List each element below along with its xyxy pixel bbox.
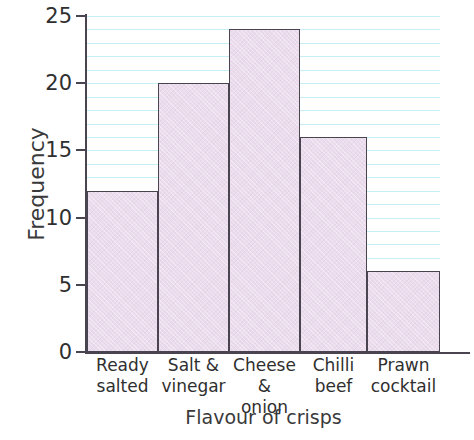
x-axis-title: Flavour of crisps bbox=[87, 406, 440, 428]
y-axis-tick-label: 5 bbox=[0, 273, 72, 297]
x-axis-category-label: Prawn cocktail bbox=[367, 355, 440, 397]
y-axis-tick bbox=[76, 351, 86, 353]
y-axis-title: Frequency bbox=[20, 16, 54, 352]
bar-chart: Frequency 0510152025 Ready saltedSalt & … bbox=[0, 0, 474, 440]
y-axis-tick bbox=[76, 149, 86, 151]
bar bbox=[367, 271, 440, 352]
y-axis-tick bbox=[76, 82, 86, 84]
y-axis-tick-label: 0 bbox=[0, 340, 72, 364]
x-axis-category-label: Salt & vinegar bbox=[158, 355, 229, 397]
y-axis-tick-label: 10 bbox=[0, 206, 72, 230]
y-axis-tick-label: 25 bbox=[0, 4, 72, 28]
y-axis-line bbox=[85, 14, 87, 354]
y-axis-tick-label: 15 bbox=[0, 138, 72, 162]
x-axis-category-label: Chilli beef bbox=[300, 355, 367, 397]
y-axis-tick bbox=[76, 284, 86, 286]
x-axis-category-labels: Ready saltedSalt & vinegarCheese & onion… bbox=[87, 355, 440, 403]
bar bbox=[229, 29, 300, 352]
x-axis-category-label: Ready salted bbox=[87, 355, 158, 397]
y-axis-tick bbox=[76, 217, 86, 219]
y-axis-tick bbox=[76, 15, 86, 17]
bar bbox=[87, 191, 158, 352]
bar bbox=[158, 83, 229, 352]
y-axis-tick-label: 20 bbox=[0, 71, 72, 95]
bars-group bbox=[87, 16, 440, 352]
plot-area bbox=[87, 16, 440, 352]
bar bbox=[300, 137, 367, 352]
